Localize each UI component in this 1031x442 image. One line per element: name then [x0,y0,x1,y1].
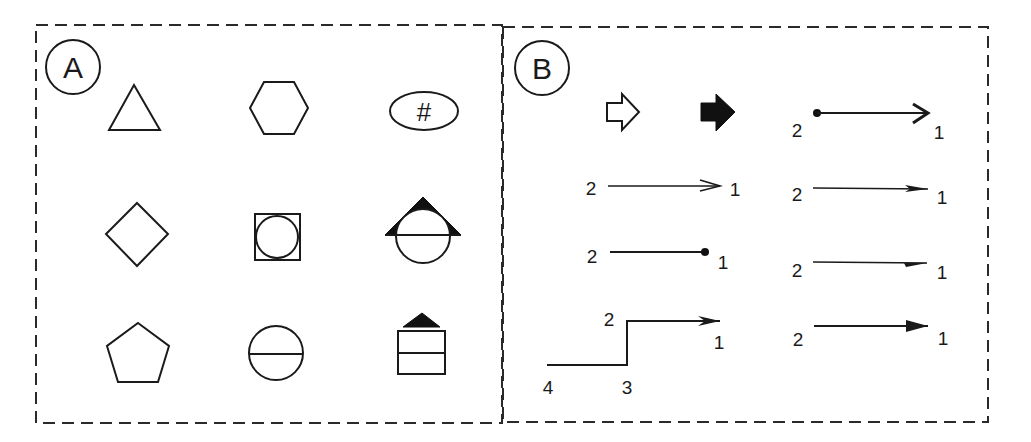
outline-block-arrow-icon [607,94,639,130]
svg-text:3: 3 [622,377,633,398]
svg-text:2: 2 [586,178,597,199]
triangle-shape [109,85,160,130]
svg-text:1: 1 [937,187,948,208]
stepped-connector: 2 1 4 3 [543,309,725,398]
hash-symbol: # [417,97,432,127]
circle-line-shape [249,326,303,380]
line-arrow-connector: 2 1 [792,184,948,208]
panel-a-label-text: A [63,51,83,84]
dot-open-arrow-connector: 2 1 [792,104,945,143]
box-roof-shape [398,313,445,374]
svg-text:4: 4 [543,377,554,398]
open-arrow-connector: 2 1 [586,178,741,200]
svg-text:2: 2 [587,246,598,267]
panel-b-frame [503,27,988,422]
svg-text:1: 1 [730,179,741,200]
svg-text:2: 2 [792,184,803,205]
hexagon-shape [250,82,308,134]
svg-text:1: 1 [937,262,948,283]
svg-text:2: 2 [792,120,803,141]
svg-text:2: 2 [792,260,803,281]
svg-text:2: 2 [604,309,615,330]
svg-text:1: 1 [714,332,725,353]
panel-b-label: B [515,41,569,95]
filled-block-arrow-icon [701,94,735,131]
svg-text:1: 1 [938,328,949,349]
panel-b-label-text: B [532,52,552,85]
half-arrow-connector: 2 1 [792,260,948,283]
ellipse-hash-shape: # [390,92,458,130]
line-dot-connector: 2 1 [587,246,729,273]
circle-roof-shape [385,197,461,263]
panel-a-label: A [46,40,100,94]
svg-text:2: 2 [793,329,804,350]
svg-text:1: 1 [718,252,729,273]
diamond-shape [106,203,168,266]
pentagon-shape [107,323,169,382]
square-circle-shape [255,214,300,260]
diagram-canvas: A B # 2 1 [0,0,1031,442]
filled-arrow-connector: 2 1 [793,320,949,350]
svg-text:1: 1 [934,122,945,143]
